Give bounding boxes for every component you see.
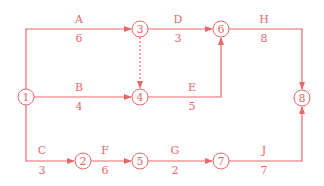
- activity-H-name: H: [259, 13, 269, 26]
- node-5-label: 5: [137, 155, 144, 168]
- activity-E-duration: 5: [189, 100, 196, 113]
- activity-E-name: E: [188, 81, 196, 94]
- activity-A-name: A: [74, 13, 84, 26]
- activity-D-name: D: [174, 13, 183, 26]
- node-2-label: 2: [80, 155, 87, 168]
- node-6-label: 6: [218, 23, 225, 36]
- activity-B-duration: 4: [76, 100, 83, 113]
- activity-J-duration: 7: [261, 164, 268, 177]
- node-7-label: 7: [218, 155, 225, 168]
- activity-G-duration: 2: [172, 164, 179, 177]
- activity-H-duration: 8: [261, 32, 268, 45]
- network-diagram: 1 2 3 4 5 6 7 8 A 6 B 4 C 3 D 3 E 5 F 6 …: [0, 0, 324, 186]
- node-1-label: 1: [23, 91, 30, 104]
- node-3-label: 3: [137, 23, 144, 36]
- arrow-C: [26, 105, 74, 161]
- activity-C-name: C: [38, 144, 46, 157]
- activity-B-name: B: [75, 81, 83, 94]
- activity-D-duration: 3: [175, 32, 182, 45]
- activity-J-name: J: [261, 144, 266, 157]
- activity-C-duration: 3: [39, 164, 46, 177]
- activity-F-name: F: [101, 144, 109, 157]
- node-4-label: 4: [137, 91, 144, 104]
- activity-A-duration: 6: [76, 32, 83, 45]
- activity-G-name: G: [171, 144, 180, 157]
- node-8-label: 8: [299, 92, 306, 105]
- arrow-E: [148, 38, 221, 97]
- activity-F-duration: 6: [102, 164, 109, 177]
